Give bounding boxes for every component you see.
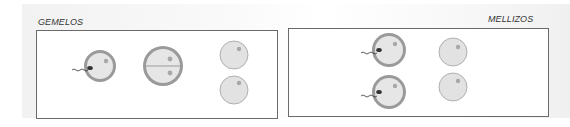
identical-embryo-top-icon [220,41,248,69]
fraternal-embryo-bottom-icon [439,73,467,101]
fertilized-egg-icon [72,50,116,82]
two-cell-zygote-icon [143,46,183,86]
fraternal-embryo-top-icon [439,38,467,66]
fertilized-egg-bottom-icon [361,75,406,109]
diagram-illustration [0,0,570,127]
fertilized-egg-top-icon [361,33,406,67]
identical-embryo-bottom-icon [220,76,248,104]
